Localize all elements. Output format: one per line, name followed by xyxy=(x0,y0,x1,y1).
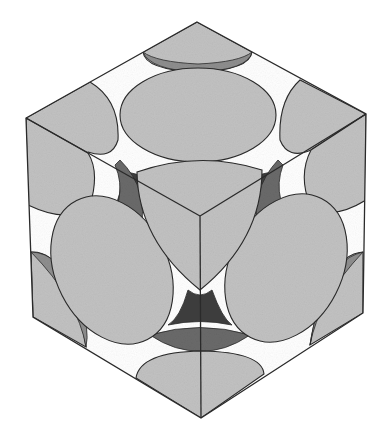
fcc-unit-cell-diagram xyxy=(0,0,386,439)
sphere-layer xyxy=(26,22,371,418)
sphere-face-top xyxy=(120,68,276,162)
sphere-corner-bottom xyxy=(136,351,264,418)
diagram-canvas xyxy=(0,0,386,439)
